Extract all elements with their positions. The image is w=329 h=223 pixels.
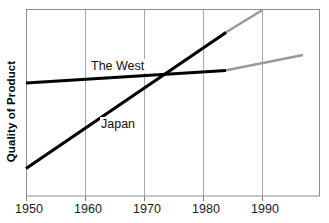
x-tick-label-1980: 1980 <box>192 202 220 216</box>
x-tick-label-1950: 1950 <box>15 202 43 216</box>
series-label-japan: Japan <box>100 117 136 131</box>
x-tick-label-1990: 1990 <box>251 202 279 216</box>
x-tick-label-1960: 1960 <box>74 202 102 216</box>
quality-of-product-chart: Quality of Product 1950 1960 1970 1980 1… <box>0 0 329 223</box>
xaxis-ticks <box>27 196 263 201</box>
chart-canvas <box>0 0 329 223</box>
series-label-the-west: The West <box>90 59 145 73</box>
plot-area-border <box>27 10 320 197</box>
x-tick-label-1970: 1970 <box>133 202 161 216</box>
